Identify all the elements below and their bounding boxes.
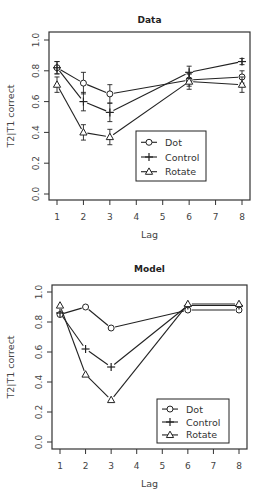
chart-title: Model [134,264,165,274]
series-line [113,74,185,110]
series-line [61,309,84,370]
triangle-marker-icon [184,300,191,306]
triangle-marker-icon [108,396,115,402]
legend-label: Rotate [165,166,196,177]
y-tick-label: 1.0 [34,285,44,300]
triangle-marker-icon [53,81,60,87]
x-tick-label: 2 [83,461,89,471]
series-line [114,308,184,364]
legend: DotControlRotate [136,131,206,181]
series-line [87,103,106,111]
series-line [114,307,186,397]
x-tick-label: 3 [108,461,114,471]
y-tick-label: 0.6 [31,94,41,109]
triangle-marker-icon [106,133,113,139]
series-line [88,377,108,397]
circle-marker-icon [80,80,86,86]
series-dot [54,62,245,104]
legend-label: Dot [165,137,182,148]
chart-title: Data [138,15,162,25]
legend: DotControlRotate [157,399,229,443]
legend-label: Control [165,152,199,163]
series-control [56,302,243,372]
x-tick-label: 4 [133,212,139,222]
legend-label: Dot [186,404,203,415]
data-panel: Data123456780.00.20.40.60.81.0LagT2|T1 c… [5,15,250,240]
x-tick-label: 5 [160,212,166,222]
x-tick-label: 1 [57,461,63,471]
x-axis-label: Lag [141,478,158,489]
y-axis-label: T2|T1 correct [5,335,16,399]
legend-label: Control [186,417,220,428]
x-tick-label: 3 [107,212,113,222]
circle-marker-icon [107,91,113,97]
x-tick-label: 4 [134,461,140,471]
x-tick-label: 2 [81,212,87,222]
model-panel: Model123456780.00.20.40.60.81.0LagT2|T1 … [5,264,247,489]
triangle-marker-icon [80,129,87,135]
triangle-marker-icon [82,371,89,377]
y-tick-label: 1.0 [31,33,41,48]
y-tick-label: 0.6 [34,345,44,360]
series-line [193,62,238,71]
y-tick-label: 0.2 [31,156,41,170]
series-line [115,311,184,327]
series-line [87,133,106,136]
series-line [89,310,108,326]
circle-legend-icon [167,406,173,412]
legend-label: Rotate [186,429,217,440]
triangle-marker-icon [235,300,242,306]
y-tick-label: 0.2 [34,405,44,419]
y-tick-label: 0.4 [34,375,44,390]
y-tick-label: 0.8 [31,63,41,78]
series-control [53,58,246,122]
series-line [193,82,238,85]
series-line [64,308,82,313]
x-tick-label: 8 [236,461,242,471]
circle-marker-icon [83,304,89,310]
x-tick-label: 7 [213,212,219,222]
x-tick-label: 6 [185,461,191,471]
series-dot [57,304,242,331]
y-tick-label: 0.8 [34,315,44,330]
triangle-marker-icon [238,81,245,87]
series-line [193,77,238,80]
x-tick-label: 1 [54,212,60,222]
series-line [87,85,106,93]
x-tick-label: 7 [211,461,217,471]
x-tick-label: 8 [239,212,245,222]
x-tick-label: 5 [159,461,165,471]
figure: Data123456780.00.20.40.60.81.0LagT2|T1 c… [0,0,261,503]
y-tick-label: 0.4 [31,125,41,140]
y-axis-label: T2|T1 correct [5,84,16,148]
y-tick-label: 0.0 [34,435,44,450]
series-line [89,351,108,364]
x-tick-label: 6 [186,212,192,222]
series-rotate [56,300,242,402]
y-tick-label: 0.0 [31,187,41,202]
triangle-marker-icon [56,302,63,308]
circle-legend-icon [146,139,152,145]
x-axis-label: Lag [141,229,158,240]
circle-marker-icon [108,325,114,331]
